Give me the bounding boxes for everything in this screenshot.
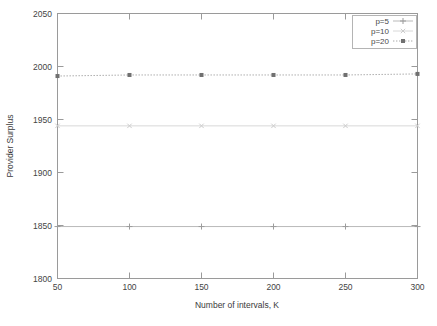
data-point [344, 73, 348, 77]
x-axis-title: Number of intervals, K [195, 300, 279, 310]
legend-swatch-p5 [393, 18, 413, 24]
data-point [199, 224, 205, 230]
series-p20 [56, 72, 420, 78]
plot-frame [58, 14, 418, 279]
series-line [58, 74, 418, 76]
legend-swatch-p10 [393, 29, 413, 33]
y-tick-label-1950: 1950 [33, 115, 52, 125]
data-point [271, 224, 277, 230]
data-point [200, 73, 204, 77]
legend-label-p20: p=20 [371, 37, 390, 46]
data-point [416, 72, 420, 76]
x-tick-label-200: 200 [266, 282, 280, 292]
data-point [127, 224, 133, 230]
legend-label-p10: p=10 [371, 27, 390, 36]
y-tick-label-1800: 1800 [33, 274, 52, 284]
y-tick-label-2050: 2050 [33, 9, 52, 19]
series-p10 [55, 124, 419, 128]
x-tick-label-300: 300 [410, 282, 424, 292]
data-point [56, 74, 60, 78]
data-point [128, 73, 132, 77]
data-point [55, 224, 61, 230]
data-series-layer [55, 72, 421, 230]
x-tick-label-150: 150 [194, 282, 208, 292]
y-axis-title: Provider Surplus [5, 115, 15, 178]
legend-label-p5: p=5 [375, 17, 389, 26]
chart-container: 1800 1850 1900 1950 2000 2050 50 100 150… [0, 0, 437, 326]
x-tick-label-50: 50 [53, 282, 63, 292]
series-p5 [55, 224, 421, 230]
y-tick-label-2000: 2000 [33, 62, 52, 72]
data-point [343, 224, 349, 230]
legend-swatch-p20 [393, 39, 413, 43]
x-tick-label-100: 100 [122, 282, 136, 292]
x-tick-label-250: 250 [338, 282, 352, 292]
data-point [415, 224, 421, 230]
provider-surplus-line-chart: 1800 1850 1900 1950 2000 2050 50 100 150… [0, 0, 437, 326]
data-point [272, 73, 276, 77]
x-axis-ticks [58, 14, 418, 279]
y-tick-label-1900: 1900 [33, 168, 52, 178]
y-axis-ticks [58, 14, 418, 279]
chart-legend: p=5 p=10 p=20 [353, 16, 417, 49]
y-tick-label-1850: 1850 [33, 221, 52, 231]
